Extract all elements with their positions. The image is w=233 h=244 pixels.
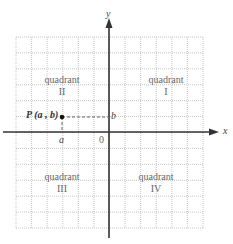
y-axis-label: y <box>106 8 110 19</box>
quadrant-i-numeral: I <box>142 86 190 98</box>
point-p-label: P (a , b) <box>26 109 58 120</box>
point-y-coordinate-label: b <box>111 110 116 121</box>
quadrant-ii-numeral: II <box>38 86 86 98</box>
point-p-marker <box>60 115 65 120</box>
quadrant-iii-label: quadrant III <box>38 171 86 195</box>
origin-label: 0 <box>99 134 104 145</box>
quadrant-iii-name: quadrant <box>38 171 86 183</box>
quadrant-iv-numeral: IV <box>132 183 180 195</box>
quadrant-iv-name: quadrant <box>132 171 180 183</box>
quadrant-iii-numeral: III <box>38 183 86 195</box>
quadrant-ii-name: quadrant <box>38 74 86 86</box>
quadrant-i-name: quadrant <box>142 74 190 86</box>
quadrant-ii-label: quadrant II <box>38 74 86 98</box>
y-axis-arrow-icon <box>106 18 113 28</box>
quadrant-iv-label: quadrant IV <box>132 171 180 195</box>
point-x-coordinate-label: a <box>59 134 64 145</box>
coordinate-plane-diagram: y x 0 P (a , b) a b quadrant I quadrant … <box>0 0 233 244</box>
coordinate-plane-graphic <box>0 0 233 244</box>
x-axis-label: x <box>223 125 227 136</box>
quadrant-i-label: quadrant I <box>142 74 190 98</box>
x-axis-arrow-icon <box>209 129 219 136</box>
